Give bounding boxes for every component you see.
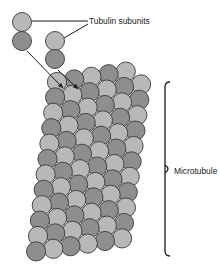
- alpha-subunit-upper-left: [13, 13, 32, 32]
- lattice-alpha-subunit: [78, 234, 97, 253]
- leader-to-middle-dimer: [64, 24, 88, 38]
- lattice-beta-subunit: [95, 231, 114, 250]
- diagram-canvas: Tubulin subunits Microtubule: [0, 0, 220, 272]
- microtubule-label: Microtubule: [174, 166, 218, 176]
- microtubule-lattice: [26, 62, 150, 261]
- tubulin-subunits-label: Tubulin subunits: [89, 16, 150, 26]
- beta-subunit-lower-left: [13, 32, 32, 51]
- lattice-beta-subunit: [26, 242, 45, 261]
- microtubule-bracket-group: [165, 82, 170, 256]
- lattice-alpha-subunit: [113, 229, 132, 248]
- alpha-subunit-upper-middle: [46, 32, 65, 51]
- beta-subunit-lower-middle: [46, 50, 65, 69]
- lattice-beta-subunit: [61, 237, 80, 256]
- lattice-alpha-subunit: [44, 239, 63, 258]
- microtubule-diagram: Tubulin subunits Microtubule: [0, 0, 220, 272]
